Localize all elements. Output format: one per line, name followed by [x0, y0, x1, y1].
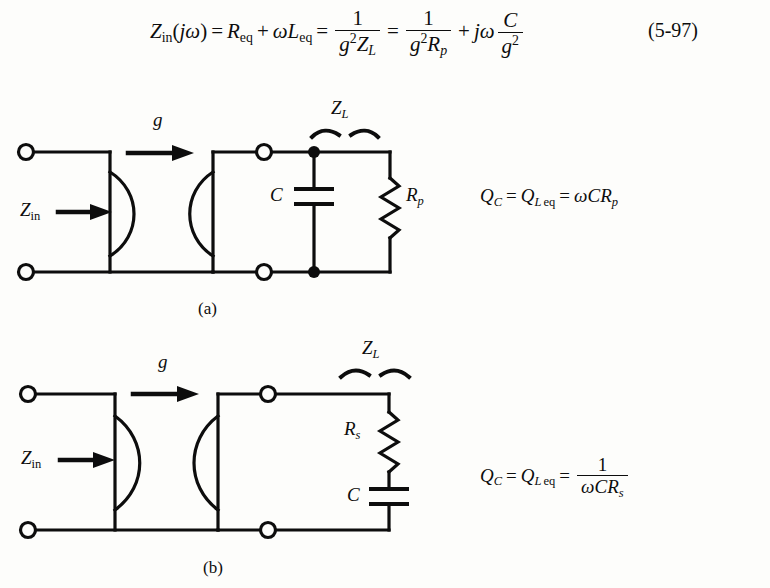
fraction-2-numerator: 1 — [406, 8, 451, 31]
eq-b-q1: Q — [480, 465, 494, 486]
brace-b-left-squiggle — [341, 371, 369, 377]
coil-a-secondary-arc — [190, 172, 213, 256]
eq-b-equals-2: = — [555, 465, 574, 486]
frac3-g: g — [502, 34, 513, 58]
frac2-R-sub: p — [440, 43, 447, 58]
eq-equals-3: = — [383, 19, 403, 43]
circuit-diagram-b: Zin g ZL Rs C — [0, 336, 470, 556]
terminal-a-in-top — [19, 145, 34, 160]
frac1-Z: Z — [357, 32, 369, 56]
eq-a-q2-sub-l: L — [535, 195, 542, 209]
resistor-a-zigzag — [381, 178, 399, 238]
terminal-b-out-top — [261, 387, 276, 402]
equation-number: (5-97) — [648, 20, 698, 40]
eq-b-q2-sub-l: L — [535, 474, 542, 488]
eq-a-omega: ω — [574, 185, 587, 206]
eq-zin-subscript: in — [162, 30, 173, 45]
circuit-a-svg — [0, 96, 470, 296]
eq-plus-2: + — [454, 19, 474, 43]
eq-a-q1: Q — [480, 185, 494, 206]
brace-a-left-squiggle — [312, 131, 339, 137]
eq-b-equals-1: = — [502, 465, 521, 486]
equation-qc-parallel: QC=QLeq=ωCRp — [480, 186, 618, 208]
eq-b-q2-sub-eq: eq — [542, 474, 556, 488]
eq-b-frac-r-sub: s — [619, 486, 624, 500]
eq-b-frac-omega: ω — [581, 476, 594, 497]
label-b-zin: Zin — [21, 448, 41, 470]
eq-zin-symbol: Z — [150, 19, 162, 43]
eq-b-frac-r: R — [607, 476, 619, 497]
eq-b-frac-num: 1 — [577, 455, 628, 476]
eq-a-r: R — [600, 185, 612, 206]
frac1-Z-sub: L — [368, 43, 376, 58]
figure-page: Zin(jω)=Req+ωLeq=1g2ZL=1g2Rp+jωCg2 (5-97… — [0, 0, 770, 588]
eq-a-r-sub: p — [612, 195, 618, 209]
terminal-a-out-bottom — [257, 265, 272, 280]
label-a-zin: Zin — [20, 200, 40, 222]
eq-a-equals-2: = — [555, 185, 574, 206]
frac2-g: g — [410, 32, 421, 56]
label-b-gain: g — [158, 352, 168, 371]
arrow-a-g-head — [172, 145, 194, 161]
resistor-b-zigzag — [380, 412, 398, 472]
coil-a-primary-arc — [110, 172, 134, 256]
label-a-gain: g — [153, 110, 163, 129]
arrow-b-g-head — [177, 386, 199, 402]
frac1-g: g — [339, 32, 350, 56]
eq-req-subscript: eq — [240, 30, 253, 45]
eq-equals-1: = — [207, 19, 227, 43]
terminal-b-in-bottom — [21, 523, 36, 538]
eq-b-frac-c: C — [595, 476, 608, 497]
equation-5-97: Zin(jω)=Req+ωLeq=1g2ZL=1g2Rp+jωCg2 — [150, 8, 526, 58]
junction-a-bottom — [308, 266, 320, 278]
eq-equals-2: = — [312, 19, 332, 43]
eq-req-symbol: R — [227, 19, 240, 43]
eq-omega-3: ω — [480, 19, 495, 43]
circuit-b-svg — [0, 336, 470, 556]
label-b-zload: ZL — [362, 338, 380, 360]
eq-plus-1: + — [253, 19, 273, 43]
eq-leq-subscript: eq — [299, 30, 312, 45]
eq-a-q2-sub-eq: eq — [542, 195, 556, 209]
eq-a-equals-1: = — [502, 185, 521, 206]
frac1-exponent: 2 — [350, 31, 357, 46]
eq-b-frac-den: ωCRs — [577, 476, 628, 499]
brace-a-right-squiggle — [351, 131, 378, 137]
eq-a-q2: Q — [521, 185, 535, 206]
fraction-1-over-g2Rp: 1g2Rp — [403, 8, 454, 58]
junction-a-top — [308, 146, 320, 158]
terminal-b-out-bottom — [261, 523, 276, 538]
coil-b-secondary-arc — [194, 416, 218, 510]
fraction-1-over-g2ZL: 1g2ZL — [332, 8, 383, 58]
fraction-1-numerator: 1 — [335, 8, 380, 31]
eq-omega-2: ω — [273, 19, 288, 43]
label-a-zload: ZL — [331, 98, 349, 120]
brace-b-right-squiggle — [381, 371, 409, 377]
eq-b-q1-sub: C — [494, 474, 502, 488]
label-a-resistor: Rp — [406, 185, 424, 207]
coil-b-primary-arc — [115, 416, 140, 510]
fraction-2-denominator: g2Rp — [406, 31, 451, 58]
terminal-b-in-top — [21, 387, 36, 402]
frac3-exponent: 2 — [512, 33, 519, 48]
label-b-resistor: Rs — [344, 419, 361, 441]
terminal-a-in-bottom — [19, 265, 34, 280]
caption-a: (a) — [198, 300, 217, 317]
terminal-a-out-top — [257, 145, 272, 160]
fraction-1-denominator: g2ZL — [335, 31, 380, 58]
label-a-capacitor: C — [270, 185, 283, 204]
label-b-capacitor: C — [347, 485, 360, 504]
frac2-R: R — [427, 32, 440, 56]
arrow-b-zin-head — [93, 452, 115, 468]
eq-b-q2: Q — [521, 465, 535, 486]
eq-a-c: C — [588, 185, 601, 206]
eq-omega: ω — [185, 19, 200, 43]
caption-b: (b) — [203, 559, 223, 576]
fraction-1-over-omegaCRs: 1ωCRs — [574, 455, 631, 499]
eq-a-q1-sub: C — [494, 195, 502, 209]
equation-qc-series: QC=QLeq=1ωCRs — [480, 455, 631, 499]
fraction-3-denominator: g2 — [498, 33, 523, 57]
fraction-C-over-g2: Cg2 — [495, 10, 526, 57]
fraction-3-numerator: C — [498, 10, 523, 33]
eq-leq-symbol: L — [288, 19, 300, 43]
